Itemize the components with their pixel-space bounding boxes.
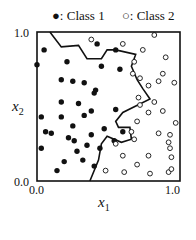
class1-point — [94, 41, 99, 46]
class1-point — [72, 138, 77, 143]
class1-point — [120, 129, 125, 134]
class2-point — [169, 155, 174, 160]
class2-point — [132, 59, 137, 64]
x-tick-max: 1.0 — [165, 183, 180, 198]
decision-boundary — [50, 32, 150, 181]
class2-point — [122, 170, 127, 175]
class2-point — [136, 95, 141, 100]
class2-point — [169, 167, 174, 172]
class1-point — [89, 132, 94, 137]
class1-point — [80, 157, 85, 162]
class1-point — [82, 113, 87, 118]
class1-point — [54, 168, 59, 173]
class2-point — [152, 100, 157, 105]
class1-point — [39, 114, 44, 119]
class2-point — [160, 71, 165, 76]
class1-point — [92, 163, 97, 168]
y-axis-label-sub: 2 — [19, 106, 24, 117]
class2-point — [172, 80, 177, 85]
x-axis-label: x1 — [98, 194, 110, 213]
class2-point — [146, 110, 151, 115]
class1-point — [64, 59, 69, 64]
class2-point — [138, 103, 143, 108]
class2-point — [173, 121, 178, 126]
class2-point — [135, 162, 140, 167]
x-tick-min: 0.0 — [29, 183, 44, 198]
plot-frame — [37, 32, 180, 181]
data-points — [34, 33, 178, 176]
class1-point — [117, 67, 122, 72]
class1-point — [61, 159, 66, 164]
class1-point — [99, 64, 104, 69]
class1-point — [43, 129, 48, 134]
class1-point — [66, 135, 71, 140]
class2-point — [129, 129, 134, 134]
class2-point — [130, 71, 135, 76]
x-axis-label-main: x — [98, 194, 105, 210]
class1-point — [113, 47, 118, 52]
class1-point — [59, 77, 64, 82]
class1-point — [93, 87, 98, 92]
y-tick-max: 1.0 — [14, 26, 29, 41]
class2-point — [135, 119, 140, 124]
class2-point — [146, 153, 151, 158]
class2-point — [89, 37, 94, 42]
class1-point — [59, 99, 64, 104]
class1-point — [97, 146, 102, 151]
class2-point — [103, 168, 108, 173]
class1-point — [39, 146, 44, 151]
class2-point — [132, 137, 137, 142]
class2-point — [148, 171, 153, 176]
class2-point — [168, 132, 173, 137]
class1-point — [89, 108, 94, 113]
class2-point — [152, 33, 157, 38]
class2-point — [168, 146, 173, 151]
class1-point — [49, 131, 54, 136]
y-tick-min: 0.0 — [14, 175, 29, 190]
class1-point — [76, 101, 81, 106]
class2-point — [113, 141, 118, 146]
class2-point — [120, 42, 125, 47]
class1-point — [102, 126, 107, 131]
class2-point — [140, 48, 145, 53]
x-axis-label-sub: 1 — [105, 202, 110, 213]
class2-point — [138, 76, 143, 81]
class1-point — [113, 107, 118, 112]
class1-point — [70, 123, 75, 128]
class2-point — [166, 140, 171, 145]
class1-point — [70, 79, 75, 84]
class1-point — [41, 47, 46, 52]
class1-point — [82, 80, 87, 85]
class1-point — [59, 114, 64, 119]
class2-point — [163, 55, 168, 60]
class2-point — [160, 109, 165, 114]
y-axis-label: x2 — [12, 98, 24, 117]
class2-point — [120, 153, 125, 158]
decision-boundary-line — [50, 32, 150, 181]
class2-point — [156, 131, 161, 136]
class2-point — [146, 83, 151, 88]
class2-point — [156, 79, 161, 84]
class1-point — [84, 143, 89, 148]
y-axis-label-main: x — [12, 98, 19, 114]
class1-point — [74, 149, 79, 154]
